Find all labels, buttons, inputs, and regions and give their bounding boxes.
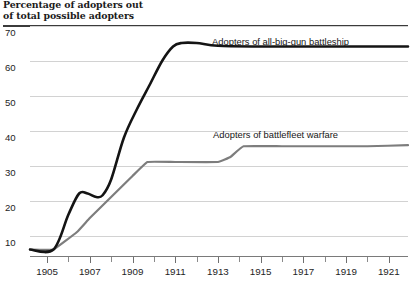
series-label-big-gun: Adopters of all-big-gun battleship bbox=[212, 36, 349, 47]
line-battlefleet-warfare bbox=[30, 145, 408, 250]
chart-container: Percentage of adopters out of total poss… bbox=[0, 0, 410, 288]
series-label-battlefleet: Adopters of battlefleet warfare bbox=[213, 129, 338, 140]
